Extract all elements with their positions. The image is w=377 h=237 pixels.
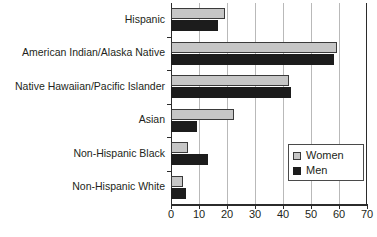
- bar-men: [171, 54, 334, 65]
- category-axis-labels: HispanicAmerican Indian/Alaska NativeNat…: [0, 3, 168, 204]
- gridline: [199, 3, 200, 204]
- bar-women: [171, 42, 337, 53]
- bar-men: [171, 154, 208, 165]
- chart-legend: Women Men: [288, 144, 364, 181]
- bar-men: [171, 121, 197, 132]
- x-axis-line: [171, 204, 367, 206]
- x-axis-tick-label: 0: [168, 208, 174, 221]
- y-axis-tick: [167, 137, 172, 138]
- gridline: [227, 3, 228, 204]
- category-label: Native Hawaiian/Pacific Islander: [0, 81, 165, 92]
- category-label: Asian: [0, 114, 165, 125]
- legend-label-women: Women: [306, 149, 344, 162]
- x-axis-tick-label: 30: [249, 208, 261, 221]
- bar-men: [171, 87, 291, 98]
- y-axis-tick: [167, 37, 172, 38]
- x-axis-tick-label: 70: [361, 208, 373, 221]
- gridline: [283, 3, 284, 204]
- bar-women: [171, 8, 225, 19]
- bar-men: [171, 188, 186, 199]
- legend-item-men: Men: [293, 163, 359, 178]
- category-label: Hispanic: [0, 14, 165, 25]
- bar-women: [171, 142, 188, 153]
- bar-women: [171, 109, 234, 120]
- category-label: Non-Hispanic Black: [0, 148, 165, 159]
- y-axis-tick: [167, 70, 172, 71]
- category-label: American Indian/Alaska Native: [0, 47, 165, 58]
- x-axis-tick-label: 60: [333, 208, 345, 221]
- bar-women: [171, 75, 289, 86]
- legend-label-men: Men: [306, 164, 327, 177]
- y-axis-tick: [167, 171, 172, 172]
- y-axis-tick: [167, 104, 172, 105]
- bar-chart: HispanicAmerican Indian/Alaska NativeNat…: [0, 0, 377, 237]
- gridline: [255, 3, 256, 204]
- bar-men: [171, 20, 218, 31]
- category-label: Non-Hispanic White: [0, 181, 165, 192]
- x-axis-tick-label: 20: [221, 208, 233, 221]
- x-axis-tick-labels: 010203040506070: [171, 208, 367, 224]
- legend-swatch-women-icon: [293, 152, 301, 160]
- legend-item-women: Women: [293, 148, 359, 163]
- x-axis-tick-label: 50: [305, 208, 317, 221]
- x-axis-tick-label: 40: [277, 208, 289, 221]
- legend-swatch-men-icon: [293, 167, 301, 175]
- bar-women: [171, 176, 183, 187]
- x-axis-tick-label: 10: [193, 208, 205, 221]
